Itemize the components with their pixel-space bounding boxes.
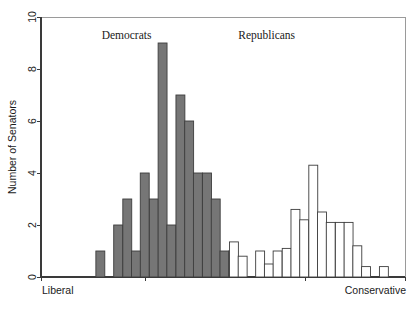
bar-democrats-2 bbox=[123, 199, 132, 277]
bar-republicans-4 bbox=[273, 251, 282, 277]
bar-democrats-1 bbox=[114, 225, 123, 277]
bar-republicans-6 bbox=[291, 209, 300, 277]
group-label-republicans: Republicans bbox=[238, 29, 295, 42]
bar-democrats-10 bbox=[193, 173, 202, 277]
bar-democrats-5 bbox=[149, 199, 158, 277]
bar-democrats-6 bbox=[158, 43, 167, 277]
bar-democrats-13 bbox=[220, 251, 229, 277]
bar-republicans-12 bbox=[344, 222, 353, 277]
bar-republicans-5 bbox=[282, 248, 291, 277]
bar-democrats-12 bbox=[211, 199, 220, 277]
group-label-democrats: Democrats bbox=[102, 29, 152, 41]
bar-republicans-9 bbox=[318, 212, 327, 277]
bar-republicans-13 bbox=[353, 246, 362, 277]
bar-republicans-3 bbox=[264, 264, 273, 277]
bar-republicans-0 bbox=[229, 242, 238, 277]
histogram-chart: 0246810Number of SenatorsLiberalConserva… bbox=[0, 0, 419, 309]
bar-republicans-14 bbox=[362, 267, 371, 277]
bar-democrats-0 bbox=[96, 251, 105, 277]
bar-democrats-3 bbox=[132, 251, 141, 277]
y-tick-label-8: 8 bbox=[26, 66, 38, 72]
bar-democrats-11 bbox=[203, 173, 212, 277]
y-tick-label-10: 10 bbox=[26, 11, 38, 23]
bar-democrats-8 bbox=[176, 95, 185, 277]
bars-group bbox=[96, 43, 388, 277]
bar-democrats-4 bbox=[140, 173, 149, 277]
bar-democrats-9 bbox=[185, 121, 194, 277]
bar-republicans-11 bbox=[335, 222, 344, 277]
bar-republicans-2 bbox=[256, 251, 265, 277]
x-axis-right-label: Conservative bbox=[345, 284, 406, 296]
y-tick-label-2: 2 bbox=[26, 222, 38, 228]
bar-republicans-15 bbox=[379, 267, 388, 277]
chart-canvas: 0246810Number of SenatorsLiberalConserva… bbox=[0, 0, 419, 309]
bar-republicans-1 bbox=[238, 256, 247, 277]
y-tick-label-0: 0 bbox=[26, 274, 38, 280]
y-tick-label-6: 6 bbox=[26, 118, 38, 124]
y-tick-label-4: 4 bbox=[26, 170, 38, 176]
bar-republicans-7 bbox=[300, 220, 309, 277]
y-axis-title: Number of Senators bbox=[6, 100, 18, 194]
bar-democrats-7 bbox=[167, 225, 176, 277]
x-axis-left-label: Liberal bbox=[42, 284, 74, 296]
bar-republicans-8 bbox=[309, 165, 318, 277]
bar-republicans-10 bbox=[326, 222, 335, 277]
